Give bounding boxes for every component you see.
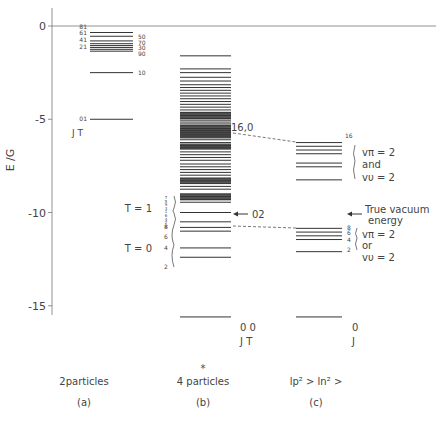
level-label: 10 <box>138 69 146 76</box>
level-label: 41 <box>79 36 87 43</box>
brace-upper <box>354 145 356 179</box>
lower-group-line2: or <box>362 240 373 251</box>
ground-label: 0 <box>352 322 358 333</box>
level-label: 2 <box>164 263 168 270</box>
label-16-0: 16,0 <box>231 122 253 133</box>
level-label: 6 <box>164 233 168 240</box>
caption-b: 4 particles <box>177 376 229 387</box>
brace-t1 <box>173 196 176 225</box>
lower-group-line3: vυ = 2 <box>362 252 395 263</box>
star-marker: * <box>201 363 206 374</box>
upper-group-line3: vυ = 2 <box>362 172 395 183</box>
tick-label: -5 <box>35 113 46 126</box>
true-vacuum-line2: energy <box>368 215 403 226</box>
t1-label: T = 1 <box>124 203 152 214</box>
tick-label: -10 <box>28 207 46 220</box>
level-label: 01 <box>79 115 87 122</box>
level-label-16: 16 <box>345 132 353 139</box>
caption-c: lp² > ln² > <box>290 376 343 387</box>
level-label: 4 <box>347 236 351 243</box>
level-label: 4 <box>164 244 168 251</box>
caption-a: 2particles <box>59 376 108 387</box>
dashed-connector-lower <box>233 226 296 228</box>
panel-p2-n2: 16vπ = 2andvυ = 2True vacuumenergy8642vπ… <box>296 132 429 347</box>
jt-label: J T <box>71 128 84 138</box>
energy-level-diagram: 0-5-10-15 E /G 81614121015070309010J T 7… <box>0 0 436 422</box>
ground-jt-label: J T <box>239 336 253 347</box>
brace-lower <box>356 228 358 250</box>
sublabel-a: (a) <box>77 397 91 408</box>
dense-level-band <box>180 143 231 149</box>
lower-group-line1: vπ = 2 <box>362 229 395 240</box>
level-label: 2 <box>347 246 351 253</box>
arrow-left-icon <box>233 212 238 217</box>
ground-label: 0 0 <box>240 322 256 333</box>
tick-label: 0 <box>39 20 46 33</box>
sublabel-b: (b) <box>196 397 210 408</box>
label-02: 02 <box>252 209 265 220</box>
brace-t0 <box>172 225 174 267</box>
panel-2-particles: 81614121015070309010J T <box>71 23 146 138</box>
tick-label: -15 <box>28 300 46 313</box>
upper-group-line1: vπ = 2 <box>362 147 395 158</box>
arrow-left-icon <box>347 212 352 217</box>
ground-j-label: J <box>351 336 355 347</box>
dashed-connector-upper <box>233 133 296 142</box>
t0-label: T = 0 <box>124 243 152 254</box>
y-axis-ticks: 0-5-10-15 <box>28 20 52 313</box>
sublabel-c: (c) <box>309 397 322 408</box>
panel-4-particles: 759316428T = 18642T = 016,0020 0J T <box>124 56 265 347</box>
level-label: 8 <box>164 223 168 230</box>
true-vacuum-line1: True vacuum <box>364 204 429 215</box>
upper-group-line2: and <box>362 159 381 170</box>
y-axis-label: E /G <box>4 149 17 172</box>
level-label: 21 <box>79 43 87 50</box>
level-label: 90 <box>138 50 146 57</box>
